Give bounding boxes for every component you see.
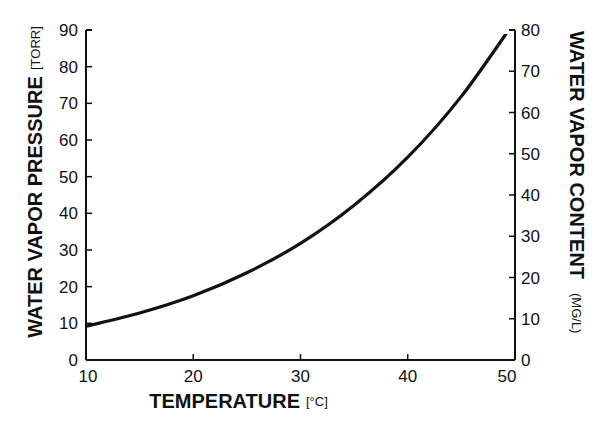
- y-tick-label: 50: [59, 168, 78, 187]
- y-tick-label: 60: [59, 131, 78, 150]
- y-tick-label: 20: [59, 278, 78, 297]
- x-tick-label: 20: [184, 367, 203, 386]
- y-axis-title: WATER VAPOR PRESSURE: [24, 76, 46, 338]
- y2-tick-label: 80: [521, 21, 540, 40]
- y2-tick-label: 40: [521, 186, 540, 205]
- y-tick-label: 40: [59, 204, 78, 223]
- y-tick-label: 90: [59, 21, 78, 40]
- y2-tick-label: 0: [521, 351, 530, 370]
- y2-tick-label: 20: [521, 269, 540, 288]
- plot-area: [86, 21, 515, 326]
- x-tick-label: 10: [79, 367, 98, 386]
- y-tick-label: 10: [59, 314, 78, 333]
- y-tick-label: 70: [59, 94, 78, 113]
- vapor-pressure-curve: [86, 21, 515, 326]
- y-tick-label: 0: [69, 351, 78, 370]
- y-axis-unit: [TORR]: [28, 26, 43, 70]
- x-tick-label: 40: [398, 367, 417, 386]
- x-axis-title: TEMPERATURE: [149, 390, 300, 412]
- y2-axis-unit: (MG/L): [569, 293, 584, 333]
- y2-tick-label: 10: [521, 310, 540, 329]
- x-tick-label: 50: [498, 367, 517, 386]
- y2-axis-title: WATER VAPOR CONTENT: [566, 31, 588, 279]
- y2-tick-label: 30: [521, 227, 540, 246]
- y2-tick-label: 60: [521, 104, 540, 123]
- y-tick-label: 80: [59, 58, 78, 77]
- water-vapor-chart: 0102030405060708090010203040506070801020…: [0, 0, 603, 427]
- x-tick-label: 30: [291, 367, 310, 386]
- y-tick-label: 30: [59, 241, 78, 260]
- y2-tick-label: 50: [521, 145, 540, 164]
- tick-labels: 0102030405060708090010203040506070801020…: [59, 21, 540, 386]
- x-axis-unit: [°C]: [306, 394, 328, 409]
- y2-tick-label: 70: [521, 62, 540, 81]
